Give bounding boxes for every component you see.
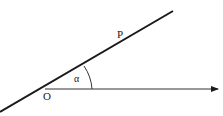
angle-label: α bbox=[74, 73, 80, 84]
terminal-ray bbox=[0, 11, 173, 112]
point-label: P bbox=[117, 28, 123, 40]
angle-arc bbox=[84, 66, 92, 89]
origin-label: O bbox=[43, 90, 51, 102]
angle-diagram: O P α bbox=[0, 0, 223, 116]
